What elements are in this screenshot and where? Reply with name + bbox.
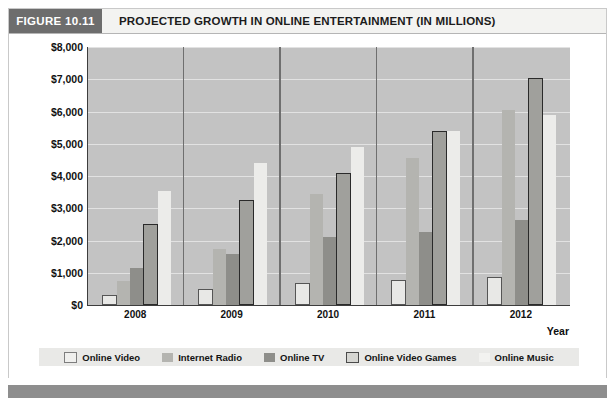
bar [487,277,502,305]
plot-area [87,47,570,306]
y-axis-labels: $8,000$7,000$6,000$5,000$4,000$3,000$2,0… [9,34,83,305]
bar-group [184,47,280,305]
footer-strip [8,385,607,398]
bar [502,110,515,305]
y-axis-tick-label: $7,000 [51,73,83,85]
bar-group [88,47,184,305]
bar [406,158,419,305]
y-axis-tick-label: $5,000 [51,138,83,150]
bar [391,280,406,305]
legend-label: Online TV [280,352,324,363]
y-axis-tick-label: $3,000 [51,202,83,214]
legend-swatch-icon [64,352,77,363]
legend-item[interactable]: Internet Radio [162,352,242,363]
x-axis-tick-label: 2008 [87,309,183,325]
legend-label: Online Video Games [364,352,456,363]
bar-group [281,47,377,305]
legend-label: Online Video [82,352,140,363]
bar [432,131,447,305]
bar [254,163,267,305]
bar [295,283,310,305]
y-axis-tick-label: $6,000 [51,106,83,118]
figure-number: FIGURE 10.11 [9,9,102,33]
bar [351,147,364,305]
bar [143,224,158,305]
legend-item[interactable]: Online Video [64,352,140,363]
bar [419,232,432,305]
bar-group [377,47,473,305]
bar [117,281,130,305]
bar [515,220,528,305]
bar [213,249,226,305]
bar-groups [88,47,570,305]
legend-swatch-icon [479,353,490,362]
figure-title: PROJECTED GROWTH IN ONLINE ENTERTAINMENT… [102,9,606,33]
figure-card: FIGURE 10.11 PROJECTED GROWTH IN ONLINE … [8,8,607,378]
chart-area: $8,000$7,000$6,000$5,000$4,000$3,000$2,0… [9,34,606,378]
legend-item[interactable]: Online TV [264,352,324,363]
x-axis-tick-label: 2011 [376,309,472,325]
y-axis-tick-label: $8,000 [51,41,83,53]
bar [198,289,213,305]
bar [543,115,556,305]
bar [130,268,143,305]
y-axis-tick-label: $4,000 [51,170,83,182]
bar [239,200,254,305]
legend-swatch-icon [346,352,359,363]
bar [158,191,171,305]
legend-swatch-icon [162,353,173,362]
x-axis-tick-label: 2009 [183,309,279,325]
legend-item[interactable]: Online Video Games [346,352,456,363]
figure-header: FIGURE 10.11 PROJECTED GROWTH IN ONLINE … [9,9,606,34]
x-axis-tick-label: 2012 [473,309,569,325]
bar [102,295,117,305]
legend-label: Internet Radio [178,352,242,363]
legend-swatch-icon [264,353,275,362]
bar [226,254,239,305]
x-axis-title: Year [464,325,569,337]
bar [310,194,323,305]
y-axis-tick-label: $1,000 [51,267,83,279]
y-axis-tick-label: $2,000 [51,235,83,247]
bar [323,237,336,305]
x-axis-tick-label: 2010 [280,309,376,325]
legend-label: Online Music [495,352,554,363]
bar [336,173,351,305]
chart-legend: Online VideoInternet RadioOnline TVOnlin… [39,348,579,366]
bar [528,78,543,305]
legend-item[interactable]: Online Music [479,352,554,363]
y-axis-tick-label: $0 [71,299,83,311]
bar [447,131,460,305]
bar-group [474,47,570,305]
x-axis-labels: 20082009201020112012 [87,309,569,325]
